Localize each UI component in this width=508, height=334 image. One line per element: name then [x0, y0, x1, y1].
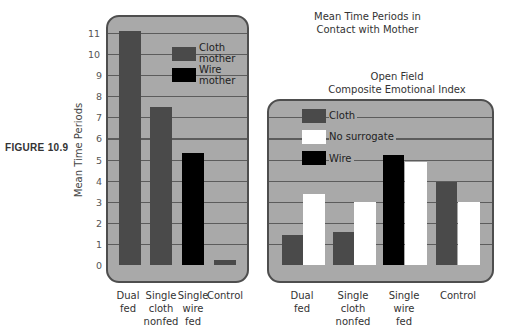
legend-swatch-cloth [302, 109, 326, 123]
x-label: Control [440, 289, 476, 302]
left-chart-title: Mean Time Periods in Contact with Mother [314, 10, 421, 36]
y-tick-label: 0 [88, 260, 102, 271]
bar-control [214, 260, 236, 265]
y-tick-label: 6 [88, 133, 102, 144]
legend-swatch-wire [302, 151, 326, 165]
y-tick-label: 7 [88, 112, 102, 123]
bar-no-surrogate [303, 194, 325, 265]
x-label: Dualfed [291, 289, 314, 315]
legend-label-cloth-mother: Cloth mother [199, 42, 235, 64]
bar-surrogate [333, 232, 354, 265]
x-label: Dualfed [117, 289, 140, 315]
left-y-axis-label: Mean Time Periods [73, 103, 84, 197]
bar-no-surrogate [405, 162, 427, 265]
legend-label-wire-mother: Wire mother [199, 64, 235, 86]
x-label: Singleclothnonfed [336, 289, 371, 328]
y-tick-label: 10 [86, 49, 100, 60]
y-tick-label: 4 [88, 175, 102, 186]
y-tick-label: 1 [88, 238, 102, 249]
legend-swatch-wire-mother [172, 68, 196, 82]
figure-label: FIGURE 10.9 [5, 142, 68, 153]
right-chart-title: Open Field Composite Emotional Index [322, 70, 472, 96]
y-tick-label: 9 [88, 70, 102, 81]
legend-swatch-no-surrogate [302, 130, 326, 144]
bar-surrogate [383, 155, 404, 265]
bar-single-wire-fed [182, 153, 204, 265]
bar-no-surrogate [458, 202, 480, 265]
y-tick-label: 8 [88, 91, 102, 102]
legend-label-no-surrogate: No surrogate [329, 131, 396, 142]
bar-surrogate [436, 182, 457, 265]
bar-no-surrogate [354, 202, 376, 265]
x-label: Singleclothnonfed [144, 289, 179, 328]
y-tick-label: 5 [88, 154, 102, 165]
legend-swatch-cloth-mother [172, 47, 196, 61]
x-label: Singlewirefed [178, 289, 209, 328]
y-tick-label: 2 [88, 217, 102, 228]
legend-label-wire: Wire [329, 153, 354, 164]
x-label: Singlewirefed [389, 289, 420, 328]
y-tick-label: 3 [88, 196, 102, 207]
gridline [269, 181, 492, 182]
y-tick-label: 11 [86, 27, 100, 38]
x-label: Control [207, 289, 243, 302]
bar-dual-fed [119, 31, 141, 265]
bar-surrogate [282, 235, 303, 265]
bar-single-cloth-nonfed [150, 107, 172, 265]
legend-label-cloth: Cloth [329, 110, 357, 121]
